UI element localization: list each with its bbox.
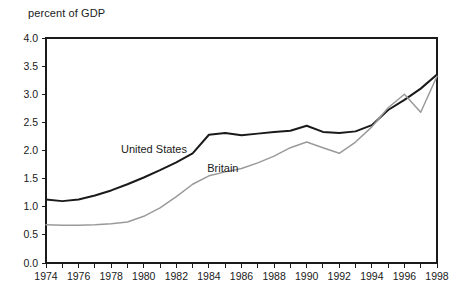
x-tick-label: 1988 xyxy=(262,270,286,282)
line-chart-plot: 0.00.51.01.52.02.53.03.54.0 197419761978… xyxy=(0,0,460,301)
x-tick-label: 1992 xyxy=(328,270,352,282)
x-tick-label: 1996 xyxy=(393,270,417,282)
y-tick-label: 2.0 xyxy=(23,144,38,156)
plot-frame xyxy=(46,38,437,263)
y-tick-label: 3.0 xyxy=(23,88,38,100)
y-tick-label: 3.5 xyxy=(23,60,38,72)
series-label-britain: Britain xyxy=(207,162,238,174)
y-tick-label: 1.5 xyxy=(23,172,38,184)
series-line-united-states xyxy=(46,75,437,202)
x-tick-label: 1994 xyxy=(360,270,384,282)
y-tick-label: 0.0 xyxy=(23,257,38,269)
chart-container: percent of GDP 0.00.51.01.52.02.53.03.54… xyxy=(0,0,460,301)
x-axis: 1974197619781980198219841986198819901992… xyxy=(34,263,449,282)
y-tick-label: 1.0 xyxy=(23,200,38,212)
x-tick-label: 1982 xyxy=(165,270,189,282)
x-tick-label: 1990 xyxy=(295,270,319,282)
x-tick-label: 1974 xyxy=(34,270,58,282)
x-tick-label: 1978 xyxy=(99,270,123,282)
x-tick-label: 1998 xyxy=(425,270,449,282)
data-series-group xyxy=(46,75,437,226)
series-line-britain xyxy=(46,76,437,225)
x-tick-label: 1984 xyxy=(197,270,221,282)
x-tick-label: 1976 xyxy=(67,270,91,282)
series-label-united-states: United States xyxy=(121,143,188,155)
x-tick-label: 1980 xyxy=(132,270,156,282)
y-tick-label: 2.5 xyxy=(23,116,38,128)
y-axis: 0.00.51.01.52.02.53.03.54.0 xyxy=(23,32,46,269)
series-annotations: United StatesBritain xyxy=(121,143,239,174)
y-tick-label: 0.5 xyxy=(23,228,38,240)
y-tick-label: 4.0 xyxy=(23,32,38,44)
x-tick-label: 1986 xyxy=(230,270,254,282)
